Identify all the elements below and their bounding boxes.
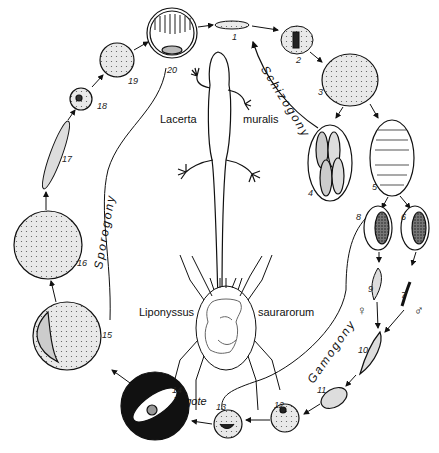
stage-18 xyxy=(70,88,92,110)
stage-number-4: 4 xyxy=(308,188,313,198)
stage-number-1: 1 xyxy=(232,32,237,42)
host-species-saurarorum: saurarorum xyxy=(258,306,314,318)
host-genus-lacerta: Lacerta xyxy=(160,113,197,125)
stage-number-11: 11 xyxy=(317,385,326,395)
stage-number-12: 12 xyxy=(274,400,284,410)
stage-15 xyxy=(33,302,101,370)
stage-2 xyxy=(281,26,313,54)
stage-number-20: 20 xyxy=(167,65,177,75)
stage-number-2: 2 xyxy=(296,55,301,65)
stage-4 xyxy=(308,125,352,201)
stage-16 xyxy=(14,211,82,279)
stage-number-16: 16 xyxy=(77,258,87,268)
stage-number-5: 5 xyxy=(372,182,377,192)
life-cycle-drawing xyxy=(0,0,439,453)
stage-number-10: 10 xyxy=(358,345,368,355)
stage-number-6: 6 xyxy=(401,212,406,222)
host-species-muralis: muralis xyxy=(243,113,278,125)
male-symbol: ♂ xyxy=(414,303,424,318)
stage-number-9: 9 xyxy=(368,284,373,294)
stage-3 xyxy=(322,54,378,106)
stage-19 xyxy=(100,43,134,77)
stage-1 xyxy=(215,21,249,29)
lizard-lacerta-muralis xyxy=(178,52,260,300)
stage-number-19: 19 xyxy=(128,76,138,86)
stage-number-13: 13 xyxy=(216,402,226,412)
stage-9-female-gamete xyxy=(372,268,382,300)
stage-number-17: 17 xyxy=(62,154,72,164)
zygote-label: Zygote xyxy=(173,395,207,407)
stage-20 xyxy=(147,8,197,58)
stage-13 xyxy=(214,410,242,438)
stage-number-7: 7 xyxy=(401,290,406,300)
stage-number-18: 18 xyxy=(97,101,107,111)
mite-liponyssus-saurarorum xyxy=(172,255,280,410)
stage-number-15: 15 xyxy=(102,330,112,340)
stage-number-14: 14 xyxy=(172,385,182,395)
stage-8 xyxy=(364,206,392,250)
stage-number-3: 3 xyxy=(318,87,323,97)
female-symbol: ♀ xyxy=(357,303,367,318)
stage-number-8: 8 xyxy=(356,212,361,222)
host-genus-liponyssus: Liponyssus xyxy=(139,306,194,318)
